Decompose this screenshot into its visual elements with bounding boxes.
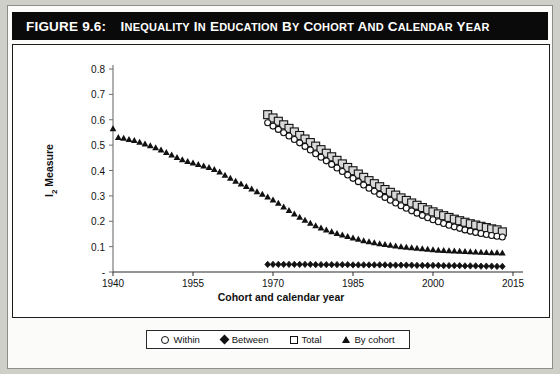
figure-title-bar: FIGURE 9.6: INEQUALITY IN EDUCATION BY C…	[12, 12, 548, 40]
filled-triangle-icon	[342, 336, 350, 343]
x-tick-label: 1985	[323, 278, 383, 289]
x-tick-label: 2015	[483, 278, 543, 289]
legend-item-total: Total	[290, 335, 322, 345]
legend-item-between: Between	[221, 335, 269, 345]
x-tick-label: 1955	[163, 278, 223, 289]
figure-title-text: FIGURE 9.6: INEQUALITY IN EDUCATION BY C…	[26, 16, 490, 38]
x-axis-label: Cohort and calendar year	[13, 291, 549, 303]
y-tick-label: -	[71, 267, 105, 278]
x-tick-label: 2000	[403, 278, 463, 289]
x-tick-label: 1940	[83, 278, 143, 289]
legend-label-bycohort: By cohort	[354, 335, 394, 345]
y-tick-label: 0.5	[71, 140, 105, 151]
legend-label-between: Between	[232, 335, 269, 345]
open-circle-icon	[161, 336, 169, 344]
y-tick-label: 0.4	[71, 165, 105, 176]
y-tick-label: 0.7	[71, 89, 105, 100]
y-tick-label: 0.3	[71, 190, 105, 201]
y-tick-label: 0.1	[71, 241, 105, 252]
open-square-icon	[290, 336, 298, 344]
y-axis-label: I2 Measure	[43, 111, 58, 231]
legend-label-within: Within	[173, 335, 199, 345]
legend-item-bycohort: By cohort	[342, 335, 394, 345]
x-tick-label: 1970	[243, 278, 303, 289]
figure-page: FIGURE 9.6: INEQUALITY IN EDUCATION BY C…	[0, 0, 560, 374]
figure-number: FIGURE 9.6:	[26, 19, 106, 34]
y-tick-label: 0.6	[71, 114, 105, 125]
chart-frame: I2 Measure Cohort and calendar year -0.1…	[12, 44, 550, 318]
filled-diamond-icon	[219, 335, 229, 345]
legend-item-within: Within	[161, 335, 199, 345]
legend-label-total: Total	[302, 335, 322, 345]
chart-legend: Within Between Total By cohort	[146, 330, 410, 349]
y-tick-label: 0.2	[71, 216, 105, 227]
y-tick-label: 0.8	[71, 64, 105, 75]
figure-title: INEQUALITY IN EDUCATION BY COHORT AND CA…	[121, 19, 490, 34]
